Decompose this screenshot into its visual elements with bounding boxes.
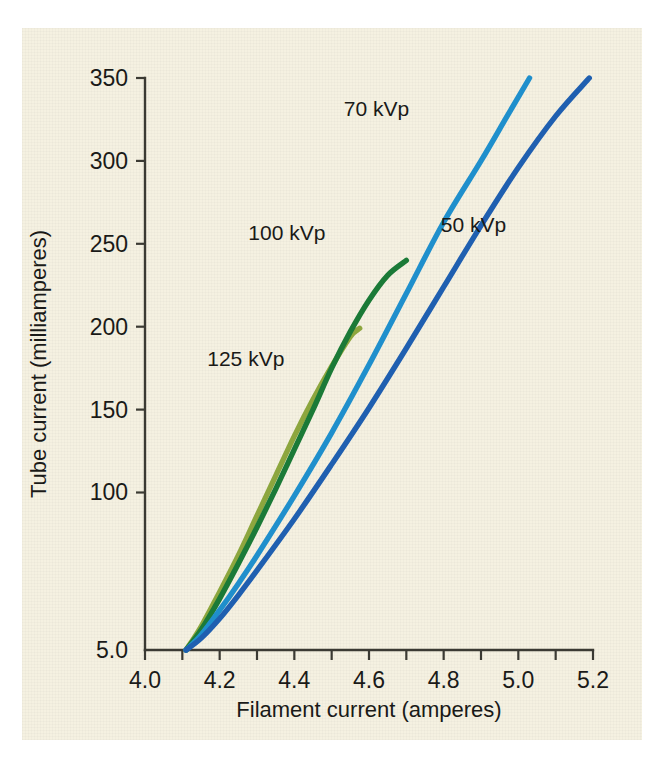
x-axis-major-ticks <box>145 650 593 660</box>
y-tick-label-1: 100 <box>90 479 128 505</box>
x-axis-title: Filament current (amperes) <box>236 697 501 722</box>
y-axis-ticks <box>136 78 145 492</box>
series-label-70-kvp: 70 kVp <box>344 97 409 120</box>
y-tick-label-0: 5.0 <box>96 637 128 663</box>
x-tick-label-6: 5.2 <box>577 667 609 693</box>
y-tick-label-6: 350 <box>90 65 128 91</box>
x-tick-label-5: 5.0 <box>502 667 534 693</box>
y-axis-title: Tube current (milliamperes) <box>26 230 51 498</box>
x-axis-tick-labels: 4.04.24.44.64.85.05.2 <box>129 667 609 693</box>
x-tick-label-3: 4.6 <box>353 667 385 693</box>
series-label-100-kvp: 100 kVp <box>248 221 325 244</box>
series-label-125-kvp: 125 kVp <box>207 347 284 370</box>
y-tick-label-2: 150 <box>90 397 128 423</box>
x-tick-label-1: 4.2 <box>204 667 236 693</box>
figure-container: 5.0100150200250300350 4.04.24.44.64.85.0… <box>0 0 664 768</box>
chart-svg: 5.0100150200250300350 4.04.24.44.64.85.0… <box>0 0 664 768</box>
x-tick-label-2: 4.4 <box>278 667 310 693</box>
y-tick-label-4: 250 <box>90 231 128 257</box>
x-tick-label-4: 4.8 <box>428 667 460 693</box>
y-tick-label-3: 200 <box>90 314 128 340</box>
series-label-50-kvp: 50 kVp <box>441 213 506 236</box>
y-axis-tick-labels: 5.0100150200250300350 <box>90 65 128 663</box>
x-tick-label-0: 4.0 <box>129 667 161 693</box>
y-tick-label-5: 300 <box>90 148 128 174</box>
